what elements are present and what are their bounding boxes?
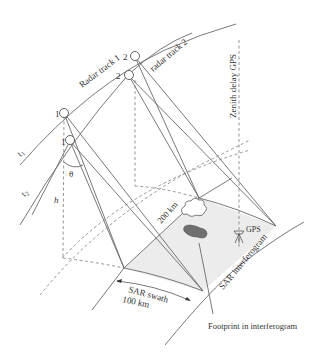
satellite-track1-pos1-icon xyxy=(60,109,69,118)
label-h: h xyxy=(54,195,59,205)
satellite-track1-pos2-icon xyxy=(131,52,140,61)
label-sat-1a: 1 xyxy=(55,109,60,119)
insar-diagram: Radar track 1 radar track 2 Zenith delay… xyxy=(0,0,332,361)
label-sat-1b: 1 xyxy=(61,137,66,147)
radar-track-1-arc xyxy=(20,24,236,165)
label-t1: t1 xyxy=(14,148,26,159)
arrowhead-right xyxy=(185,297,191,301)
label-zenith-delay-gps: Zenith delay GPS xyxy=(228,54,238,118)
label-t2: t2 xyxy=(18,188,30,199)
diagram-canvas: Radar track 1 radar track 2 Zenith delay… xyxy=(0,0,332,361)
dashed-nadir-base xyxy=(63,258,124,268)
satellite-track2-pos1-icon xyxy=(66,136,75,145)
label-footprint: Footprint in interferogram xyxy=(208,321,298,331)
dashed-base-2 xyxy=(135,186,199,198)
cloud-icon xyxy=(181,198,206,216)
satellite-track2-pos2-icon xyxy=(125,71,134,80)
label-sat-2b: 2 xyxy=(116,71,121,81)
arrowhead-left xyxy=(116,279,122,283)
label-gps: GPS xyxy=(246,225,261,234)
label-theta: θ xyxy=(69,169,73,179)
label-sat-2a: 2 xyxy=(123,52,128,62)
